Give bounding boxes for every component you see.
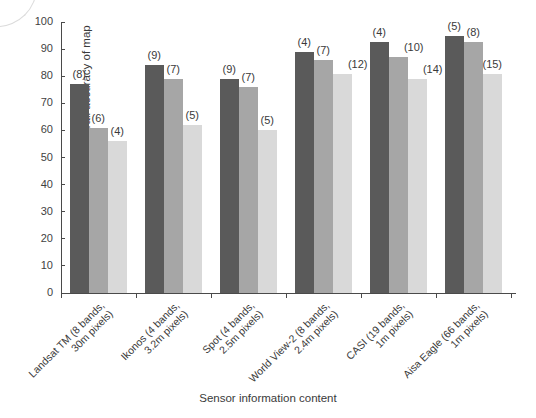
bar: (7) xyxy=(239,87,258,293)
y-tick-mark xyxy=(61,103,65,104)
bar-count-label: (8) xyxy=(73,68,86,81)
bar: (9) xyxy=(145,65,164,293)
bar: (4) xyxy=(370,42,389,293)
x-tick xyxy=(361,293,362,298)
category-label-line1: Aisa Eagle (66 bands, xyxy=(401,299,482,380)
y-tick-label: 60 xyxy=(41,122,53,136)
bar-count-label: (15) xyxy=(482,58,502,71)
y-tick-mark xyxy=(61,22,65,23)
bar-count-label: (7) xyxy=(317,44,330,57)
bar-count-label: (12) xyxy=(348,58,368,71)
y-tick-label: 40 xyxy=(41,177,53,191)
bar-count-label: (8) xyxy=(467,26,480,39)
bar-group: (4)(7)(12) xyxy=(295,22,352,293)
y-tick-label: 100 xyxy=(35,14,53,28)
y-tick-label: 80 xyxy=(41,68,53,82)
bar: (7) xyxy=(314,60,333,293)
bar-count-label: (5) xyxy=(261,114,274,127)
bar-count-label: (10) xyxy=(404,41,424,54)
y-tick-mark xyxy=(61,76,65,77)
y-tick-mark xyxy=(61,157,65,158)
x-tick xyxy=(511,293,512,298)
bar: (14) xyxy=(408,79,427,293)
y-tick-label: 70 xyxy=(41,95,53,109)
bar-count-label: (14) xyxy=(423,63,443,76)
y-tick-label: 30 xyxy=(41,204,53,218)
bar: (6) xyxy=(89,128,108,293)
plot-area: 0102030405060708090100 (8)(6)(4)(9)(7)(5… xyxy=(61,22,516,293)
bar: (15) xyxy=(483,74,502,294)
bar-group: (9)(7)(5) xyxy=(145,22,202,293)
bar-count-label: (5) xyxy=(448,20,461,33)
bar: (8) xyxy=(70,84,89,293)
category-label-line1: Landsat TM (8 bands, xyxy=(26,299,107,380)
x-tick xyxy=(136,293,137,298)
bar-count-label: (4) xyxy=(373,26,386,39)
bar-count-label: (9) xyxy=(223,63,236,76)
y-tick-mark xyxy=(61,238,65,239)
bar: (8) xyxy=(464,42,483,293)
bar-chart: % Overall accuracy of map Sensor informa… xyxy=(0,0,536,418)
bar: (4) xyxy=(295,52,314,293)
bar: (4) xyxy=(108,141,127,293)
bar-count-label: (7) xyxy=(167,63,180,76)
bar-count-label: (7) xyxy=(242,71,255,84)
x-axis-line xyxy=(61,293,516,294)
x-tick xyxy=(436,293,437,298)
x-tick xyxy=(286,293,287,298)
y-tick-mark xyxy=(61,130,65,131)
y-tick-label: 10 xyxy=(41,258,53,272)
bar-count-label: (4) xyxy=(111,125,124,138)
bar-count-label: (9) xyxy=(148,49,161,62)
bar: (10) xyxy=(389,57,408,293)
bar: (9) xyxy=(220,79,239,293)
y-tick-mark xyxy=(61,265,65,266)
bar: (5) xyxy=(445,36,464,293)
bar: (5) xyxy=(258,130,277,293)
bar-group: (9)(7)(5) xyxy=(220,22,277,293)
y-tick-label: 20 xyxy=(41,231,53,245)
bar-count-label: (4) xyxy=(298,36,311,49)
bar-group: (5)(8)(15) xyxy=(445,22,502,293)
x-tick xyxy=(61,293,62,298)
y-tick-label: 90 xyxy=(41,41,53,55)
bar-count-label: (5) xyxy=(186,109,199,122)
y-tick-mark xyxy=(61,184,65,185)
bar-count-label: (6) xyxy=(92,112,105,125)
y-tick-mark xyxy=(61,49,65,50)
bar: (7) xyxy=(164,79,183,293)
x-tick xyxy=(211,293,212,298)
bar-group: (4)(10)(14) xyxy=(370,22,427,293)
bar-group: (8)(6)(4) xyxy=(70,22,127,293)
y-tick-label: 0 xyxy=(47,285,53,299)
bar: (12) xyxy=(333,74,352,294)
bar: (5) xyxy=(183,125,202,293)
y-tick-label: 50 xyxy=(41,150,53,164)
y-tick-mark xyxy=(61,211,65,212)
